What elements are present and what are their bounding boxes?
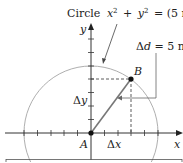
delta-x-label: Δx bbox=[107, 138, 122, 151]
y-axis-label: y bbox=[79, 23, 87, 36]
circle-leader bbox=[104, 24, 117, 61]
x-axis-arrow-icon bbox=[176, 130, 183, 136]
point-a-label: A bbox=[79, 138, 88, 151]
x-axis-label: x bbox=[174, 138, 181, 151]
point-b bbox=[128, 76, 133, 81]
displacement-diagram: Circle x2 + y2 = (5 m)2 y x B A Δd = 5 m… bbox=[0, 0, 183, 162]
circle-leader-arrow-icon bbox=[102, 58, 106, 64]
caption-box bbox=[6, 160, 182, 163]
y-axis-arrow-icon bbox=[88, 23, 94, 30]
displacement-vector bbox=[91, 79, 131, 133]
delta-y-label: Δy bbox=[73, 94, 88, 107]
point-b-label: B bbox=[133, 65, 142, 78]
point-a bbox=[88, 130, 93, 135]
delta-d-label: Δd = 5 m bbox=[136, 40, 183, 53]
circle-equation-label: Circle x2 + y2 = (5 m)2 bbox=[67, 3, 183, 20]
